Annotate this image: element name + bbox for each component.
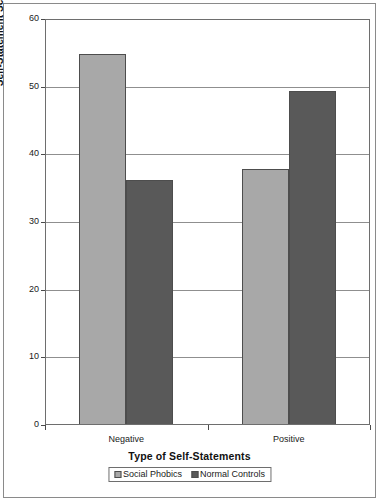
y-axis-tick-label: 0 xyxy=(9,420,39,429)
y-axis-tick-label: 30 xyxy=(9,217,39,226)
x-axis-title: Type of Self-Statements xyxy=(0,450,379,462)
bar-chart-figure: Self-Statement Score 6050403020100 Negat… xyxy=(0,0,379,501)
legend-label: Normal Controls xyxy=(200,470,265,479)
plot-area xyxy=(45,19,370,425)
y-axis-tick-label: 10 xyxy=(9,352,39,361)
x-axis-tick-mark xyxy=(370,425,371,430)
plot-border xyxy=(45,19,370,425)
legend-entry: Normal Controls xyxy=(191,470,265,479)
legend-swatch-icon xyxy=(114,471,121,478)
x-axis-category-label: Positive xyxy=(229,434,349,444)
x-axis-tick-mark xyxy=(45,425,46,430)
legend-swatch-icon xyxy=(191,471,198,478)
y-axis-title: Self-Statement Score xyxy=(0,0,5,120)
chart-legend: Social PhobicsNormal Controls xyxy=(108,467,271,482)
x-axis-tick-mark xyxy=(208,425,209,430)
y-axis-tick-label: 60 xyxy=(9,14,39,23)
y-axis-tick-label: 50 xyxy=(9,82,39,91)
x-axis-category-label: Negative xyxy=(66,434,186,444)
legend-label: Social Phobics xyxy=(123,470,182,479)
y-axis-tick-label: 20 xyxy=(9,285,39,294)
y-axis-tick-label: 40 xyxy=(9,149,39,158)
legend-entry: Social Phobics xyxy=(114,470,182,479)
